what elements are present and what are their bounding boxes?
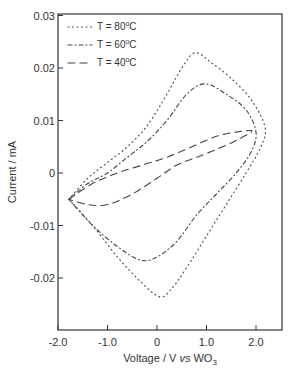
y-tick-label: 0.02 <box>34 62 55 74</box>
x-tick-label: -2.0 <box>49 336 68 348</box>
legend-label: T = 40oC <box>97 56 137 68</box>
plot-frame <box>58 14 282 330</box>
cyclic-voltammogram-chart: -2.0-1.001.02.00.030.020.010-0.01-0.02 T… <box>0 0 295 374</box>
y-axis-title: Current / mA <box>6 140 18 203</box>
curves <box>69 53 266 297</box>
series-curve-80c <box>69 53 266 297</box>
x-tick-label: 1.0 <box>199 336 214 348</box>
y-tick-label: 0.01 <box>34 115 55 127</box>
series-curve-60c <box>69 84 256 261</box>
x-tick-label: 2.0 <box>248 336 263 348</box>
y-tick-label: 0 <box>49 167 55 179</box>
y-tick-label: 0.03 <box>34 10 55 22</box>
axis-ticks: -2.0-1.001.02.00.030.020.010-0.01-0.02 <box>30 10 264 349</box>
plot-area <box>58 14 282 330</box>
series-curve-40c <box>69 130 252 205</box>
y-tick-label: -0.01 <box>30 220 55 232</box>
y-tick-label: -0.02 <box>30 272 55 284</box>
legend: T = 80oCT = 60oCT = 40oC <box>68 20 137 68</box>
x-axis-title: Voltage / V vs WO3 <box>123 352 217 367</box>
legend-label: T = 60oC <box>97 38 137 50</box>
x-tick-label: 0 <box>154 336 160 348</box>
legend-label: T = 80oC <box>97 20 137 32</box>
x-tick-label: -1.0 <box>98 336 117 348</box>
